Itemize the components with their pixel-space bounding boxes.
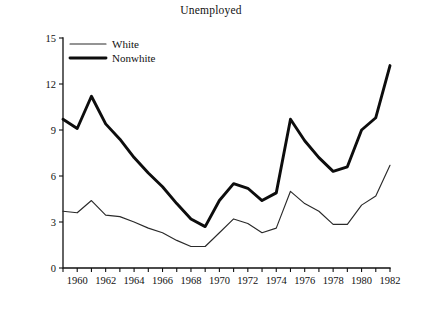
chart-plot-area: 0369121519601962196419661968197019721974… [0, 0, 422, 310]
x-tick-label: 1960 [67, 275, 88, 286]
x-tick-label: 1978 [323, 275, 344, 286]
axes [63, 38, 390, 268]
legend-label-nonwhite: Nonwhite [112, 52, 156, 64]
x-tick-label: 1962 [95, 275, 116, 286]
x-tick-label: 1976 [294, 275, 315, 286]
tick-labels: 0369121519601962196419661968197019721974… [46, 33, 401, 286]
data-series [63, 66, 390, 247]
y-tick-label: 15 [46, 33, 57, 44]
axis-spines [63, 38, 390, 268]
y-tick-label: 0 [51, 263, 56, 274]
x-tick-label: 1974 [266, 275, 288, 286]
x-tick-label: 1964 [124, 275, 146, 286]
x-tick-label: 1972 [237, 275, 258, 286]
x-tick-label: 1968 [180, 275, 201, 286]
series-line-white [63, 165, 390, 246]
y-tick-label: 6 [51, 171, 56, 182]
y-tick-label: 12 [46, 79, 57, 90]
x-tick-label: 1982 [380, 275, 401, 286]
y-tick-label: 3 [51, 217, 56, 228]
series-line-nonwhite [63, 66, 390, 227]
tick-marks [59, 38, 390, 272]
x-tick-label: 1980 [351, 275, 372, 286]
x-tick-label: 1966 [152, 275, 173, 286]
y-tick-label: 9 [51, 125, 56, 136]
x-tick-label: 1970 [209, 275, 230, 286]
chart-legend: WhiteNonwhite [70, 38, 156, 64]
legend-label-white: White [112, 38, 139, 50]
chart-figure: Unemployed Percentage 036912151960196219… [0, 0, 422, 310]
